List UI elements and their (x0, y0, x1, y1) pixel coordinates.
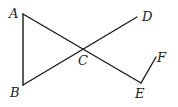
label-d: D (141, 9, 153, 24)
segment-bd (23, 17, 137, 85)
label-c: C (78, 53, 88, 68)
segment-ae (23, 14, 141, 83)
segments (23, 14, 156, 85)
label-e: E (134, 86, 145, 101)
point-labels: A B C D E F (8, 6, 167, 101)
geometry-diagram: A B C D E F (0, 0, 178, 107)
label-b: B (9, 85, 20, 100)
label-f: F (156, 50, 167, 65)
label-a: A (8, 6, 18, 21)
segment-ef (141, 57, 156, 83)
